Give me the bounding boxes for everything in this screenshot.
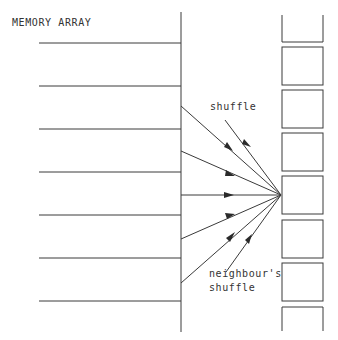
processor-cell-partial-top: [282, 15, 323, 42]
memory-shuffle-diagram: [0, 0, 338, 340]
processor-cell: [282, 133, 323, 171]
arrowheads: [224, 139, 252, 244]
arrow-row-2: [181, 151, 281, 195]
neighbour-shuffle-label-line2: shuffle: [209, 281, 255, 294]
arrowhead-icon: [245, 234, 252, 244]
shuffle-label: shuffle: [210, 100, 256, 113]
neighbour-shuffle-label-line1: neighbour's: [209, 267, 282, 280]
memory-array-title: MEMORY ARRAY: [12, 16, 91, 29]
arrowhead-icon: [224, 192, 234, 198]
arrow-shuffle-label: [225, 120, 281, 195]
arrowhead-icon: [242, 139, 251, 147]
processor-cells: [282, 15, 323, 331]
processor-cell: [282, 220, 323, 258]
processor-cell-target: [282, 176, 323, 214]
processor-cell: [282, 90, 323, 128]
processor-cell: [282, 263, 323, 301]
processor-cell: [282, 47, 323, 85]
arrow-row-4: [181, 195, 281, 239]
processor-cell-partial-bottom: [282, 307, 323, 331]
arrowhead-icon: [224, 142, 233, 151]
arrowhead-icon: [225, 170, 235, 176]
arrow-row-1: [181, 106, 281, 195]
memory-rows: [39, 43, 181, 301]
